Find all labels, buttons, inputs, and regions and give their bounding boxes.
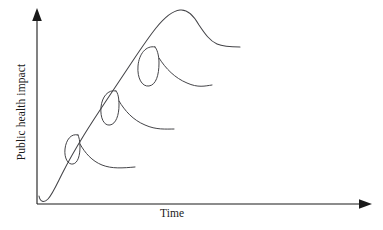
figure-container: Public health impact Time (0, 0, 383, 230)
y-axis-arrowhead (32, 8, 42, 21)
loop-curve-3 (138, 47, 159, 86)
x-axis-arrowhead (359, 199, 372, 209)
y-axis-label: Public health impact (15, 47, 27, 177)
branch-curve-1 (80, 144, 135, 168)
branch-curve-3 (159, 58, 212, 86)
branch-curve-2 (119, 101, 174, 129)
main-trend-curve (39, 10, 240, 201)
x-axis-label: Time (160, 207, 184, 219)
chart-canvas (0, 0, 383, 230)
loop-curve-1 (65, 135, 80, 164)
